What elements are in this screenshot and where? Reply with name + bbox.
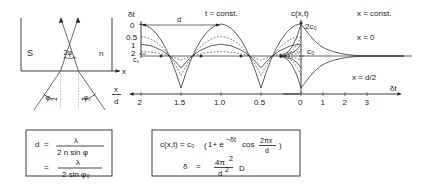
formula-left-num1: λ [74,136,78,145]
outer-angle-right-label: φ₀ [84,94,92,102]
formula-right-line2-lhs: δ [183,162,188,171]
inner-angle-label: 2φ [64,49,73,57]
formula-right-line1-frac-num: 2πx [260,137,273,144]
spatial-node-1 [160,55,163,58]
temporal-peak-label: 2c₀ [305,22,317,31]
spatial-xtick-label-2: 1.0 [214,98,226,107]
spatial-node-2 [200,55,203,58]
temporal-xtick-label-1: 1 [321,98,326,107]
index-label-n: n [99,49,103,58]
temporal-curve-label-top: x = 0 [357,33,375,42]
formula-right-line2-eq: = [196,162,201,171]
outer-ray-right [79,71,106,110]
spatial-xaxis-caption-num: x [114,85,118,94]
optics-x-axis-label: x [122,67,126,76]
temporal-curve-label-bottom: x = d/2 [352,73,377,82]
formula-left-lhs: d [35,140,39,149]
spatial-plot-panel: 2 1.5 1.0 0.5 x d δt 0 0.5 1 2 c₀ d t = … [112,9,300,107]
medium-label-s: S [27,48,33,58]
spatial-xtick-label-0: 2 [138,98,143,107]
spatial-node-3 [240,55,243,58]
formula-left-den2: 2 sin φ₀ [62,170,90,179]
temporal-plot-panel: 0 1 2 3 δt c(x,t) 2c₀ c₀ x = const. x = … [279,9,412,107]
spatial-xtick-label-3: 0.5 [254,98,266,107]
inner-ray-right [61,19,79,71]
formula-right-line2-num-exp: 2 [229,155,233,162]
temporal-rise-curve-0 [281,24,301,56]
formula-right-line2-rhs: D [239,164,245,173]
formula-right-line2-den-exp: 2 [225,166,229,173]
temporal-curve-x-d-half [301,56,404,88]
spatial-baseline-label-c0: c₀ [133,56,140,63]
formula-box-right: c(x,t) = c₀ ( 1+ e −δt cos 2πx d ) δ = 4… [152,130,300,178]
formula-left-eq2: = [44,163,49,172]
inner-ray-right-arrowhead [59,17,64,23]
outer-angle-left-label: φ₀ [46,94,54,102]
formula-right-paren-close: ) [279,141,282,150]
spatial-condition-label: t = const. [205,9,238,18]
formula-right-line1-exp: −δt [226,136,236,143]
formula-right-line1-mid: 1+ e [208,140,224,149]
figure-canvas: 2φ φ₀ φ₀ S n x 2 1.5 1.0 [0,0,432,188]
formula-left-num2: λ [76,158,80,167]
temporal-xtick-label-2: 2 [343,98,348,107]
spatial-ytick-label-0: 0 [130,21,135,30]
spatial-y-caption-deltat: δt [128,10,135,19]
formula-right-line1-frac-den: d [265,147,269,154]
spatial-xaxis-caption-den: d [114,97,118,106]
inner-ray-left [61,19,79,71]
temporal-x-axis-arrowhead [397,92,402,95]
temporal-origin-node [279,54,282,57]
period-label-d: d [177,15,181,24]
temporal-xtick-label-3: 3 [365,98,370,107]
formula-left-eq1: = [44,140,49,149]
temporal-y-axis-label: c(x,t) [291,9,309,18]
spatial-xtick-label-1: 1.5 [174,98,186,107]
formula-right-line2-den: d [218,169,222,178]
formula-right-line1-cos: cos [242,140,254,149]
formula-right-paren-open: ( [204,141,207,150]
temporal-x-axis-label: δt [390,84,397,93]
formula-left-den1: 2 n sin φ [57,148,88,157]
temporal-fall-curve-1 [281,56,301,68]
optics-panel: 2φ φ₀ φ₀ S n x [21,17,126,110]
spatial-x-axis-arrowhead [129,92,134,95]
temporal-fall-curve-0 [281,56,301,88]
formula-right-line2-num: 4π [215,158,225,167]
outer-ray-left [34,71,61,110]
inner-ray-left-arrowhead [76,17,81,23]
inner-angle-arc [64,58,75,59]
formula-right-line1-lhs: c(x,t) = c₀ [160,140,194,149]
scientific-figure: 2φ φ₀ φ₀ S n x 2 1.5 1.0 [0,0,432,188]
temporal-condition-label: x = const. [357,9,391,18]
temporal-xtick-label-0: 0 [298,98,303,107]
temporal-baseline-label: c₀ [307,47,314,56]
temporal-y-axis-arrowhead [299,20,302,25]
x-axis-arrowhead [116,69,121,72]
formula-box-left: d = λ 2 n sin φ = λ 2 sin φ₀ [26,130,112,179]
